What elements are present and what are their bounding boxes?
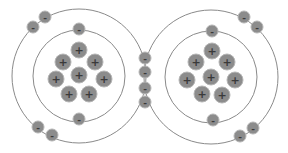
- proton: +: [71, 42, 87, 58]
- electron: -: [39, 11, 51, 23]
- electron: -: [73, 23, 85, 35]
- proton: +: [81, 86, 97, 102]
- proton-symbol: +: [74, 44, 83, 57]
- proton: +: [203, 69, 219, 85]
- proton-symbol: +: [191, 56, 200, 69]
- electron-symbol: -: [238, 132, 242, 142]
- electron-symbol: -: [43, 13, 47, 23]
- proton-symbol: +: [206, 71, 215, 84]
- electron: -: [251, 21, 263, 33]
- proton: +: [214, 87, 230, 103]
- shared-electron-symbol: -: [143, 54, 147, 64]
- proton: +: [194, 86, 210, 102]
- proton: +: [179, 72, 195, 88]
- electron: -: [27, 21, 39, 33]
- electron-symbol: -: [36, 123, 40, 133]
- electron: -: [73, 113, 85, 125]
- shared-electron-symbol: -: [143, 68, 147, 78]
- electron-symbol: -: [211, 116, 215, 126]
- covalent-bond-diagram: ++++++++------++++++++----------: [0, 0, 288, 153]
- shared-electron-symbol: -: [143, 84, 147, 94]
- proton-symbol: +: [182, 74, 191, 87]
- proton: +: [219, 54, 235, 70]
- proton-symbol: +: [222, 56, 231, 69]
- proton-symbol: +: [197, 88, 206, 101]
- proton-symbol: +: [58, 56, 67, 69]
- proton: +: [96, 71, 112, 87]
- shared-electron: -: [139, 52, 151, 64]
- proton: +: [61, 86, 77, 102]
- proton-symbol: +: [217, 89, 226, 102]
- electron-symbol: -: [31, 23, 35, 33]
- proton-symbol: +: [207, 45, 216, 58]
- proton-symbol: +: [64, 88, 73, 101]
- proton-symbol: +: [230, 74, 239, 87]
- proton-symbol: +: [90, 56, 99, 69]
- proton-symbol: +: [74, 69, 83, 82]
- electron: -: [206, 25, 218, 37]
- electron: -: [46, 129, 58, 141]
- proton-symbol: +: [84, 88, 93, 101]
- proton: +: [227, 72, 243, 88]
- electron-symbol: -: [50, 131, 54, 141]
- electron-symbol: -: [210, 27, 214, 37]
- electron-symbol: -: [77, 25, 81, 35]
- shared-electron-pair-group: ----: [139, 52, 151, 108]
- proton: +: [55, 54, 71, 70]
- proton-symbol: +: [51, 73, 60, 86]
- electron: -: [32, 121, 44, 133]
- right-atom: ++++++++------: [144, 10, 278, 144]
- proton: +: [48, 71, 64, 87]
- electron-symbol: -: [77, 115, 81, 125]
- electron-symbol: -: [242, 13, 246, 23]
- shared-electron-symbol: -: [143, 98, 147, 108]
- shared-electron: -: [139, 96, 151, 108]
- shared-electron: -: [139, 66, 151, 78]
- proton: +: [188, 54, 204, 70]
- proton: +: [87, 54, 103, 70]
- electron: -: [207, 114, 219, 126]
- electron: -: [247, 122, 259, 134]
- electron: -: [234, 130, 246, 142]
- electron: -: [238, 11, 250, 23]
- left-atom: ++++++++------: [12, 9, 146, 143]
- shared-electron: -: [139, 82, 151, 94]
- proton: +: [71, 67, 87, 83]
- electron-symbol: -: [255, 23, 259, 33]
- proton-symbol: +: [99, 73, 108, 86]
- proton: +: [204, 43, 220, 59]
- electron-symbol: -: [251, 124, 255, 134]
